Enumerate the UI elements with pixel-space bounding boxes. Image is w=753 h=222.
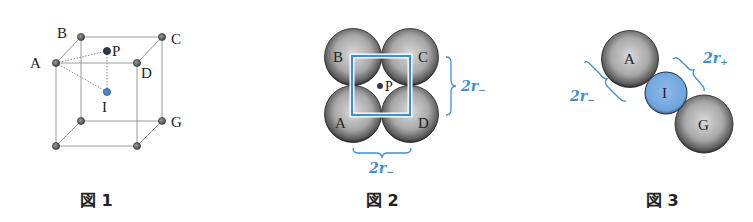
point-i	[103, 88, 110, 95]
label-d: D	[141, 65, 152, 81]
label-b: B	[57, 25, 67, 41]
vertex-front-bottom-left	[52, 142, 59, 149]
label-a: A	[335, 115, 346, 131]
label-i: I	[102, 99, 107, 115]
cube-edge	[56, 121, 81, 146]
caption-figure-1: 図 1	[80, 191, 113, 210]
vertex-b	[77, 33, 84, 40]
label-b: B	[333, 49, 343, 65]
caption-figure-2: 図 2	[366, 191, 399, 210]
label-a: A	[30, 55, 41, 71]
vertex-front-bottom-right	[133, 142, 140, 149]
dimension-right-label: 2r−	[460, 78, 486, 95]
point-p	[103, 47, 110, 54]
cube-edge	[137, 121, 162, 146]
label-c: C	[418, 49, 428, 65]
label-d: D	[418, 115, 429, 131]
caption-figure-3: 図 3	[646, 191, 679, 210]
label-p: P	[385, 79, 393, 94]
figure-1-cube: B C A D G P I 図 1	[30, 25, 182, 210]
brace-bottom	[353, 148, 411, 158]
dimension-bottom-label: 2r−	[368, 160, 394, 177]
dimension-right-label: 2r+	[702, 50, 728, 67]
point-p	[377, 83, 383, 89]
figure-canvas: B C A D G P I 図 1 P B C A D 2r− 2r− 図 2	[0, 0, 753, 222]
figure-3-contact: A I G 2r− 2r+ 図 3	[569, 31, 733, 211]
label-g: G	[171, 114, 182, 130]
vertex-a	[52, 59, 59, 66]
dimension-left-label: 2r−	[569, 88, 595, 105]
vertex-g	[158, 117, 165, 124]
label-i: I	[662, 85, 667, 101]
label-a: A	[624, 51, 635, 67]
vertex-back-bottom-left	[77, 117, 84, 124]
vertex-c	[158, 33, 165, 40]
figure-2-spheres: P B C A D 2r− 2r− 図 2	[325, 29, 486, 211]
brace-right	[446, 57, 456, 115]
cube-edge	[137, 37, 162, 63]
vertex-d	[133, 59, 140, 66]
label-c: C	[171, 31, 181, 47]
label-p: P	[112, 43, 120, 59]
label-g: G	[698, 117, 709, 133]
